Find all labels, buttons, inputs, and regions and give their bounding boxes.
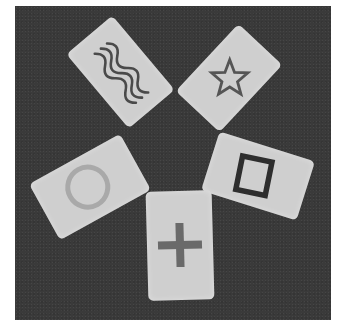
plus-icon	[146, 190, 215, 301]
card-plus	[146, 190, 215, 301]
